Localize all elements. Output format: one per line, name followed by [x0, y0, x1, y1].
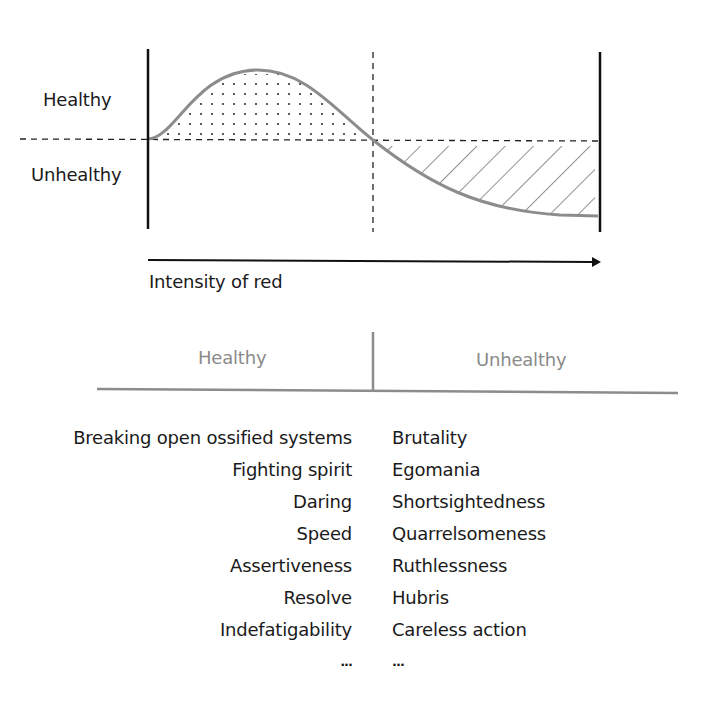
list-item-ellipsis: ...	[392, 646, 546, 678]
list-item: Fighting spirit	[73, 454, 352, 486]
y-label-healthy: Healthy	[43, 89, 111, 110]
list-item: Shortsightedness	[392, 486, 546, 518]
list-item-ellipsis: ...	[73, 646, 352, 678]
neutral-baseline	[20, 139, 598, 141]
unhealthy-traits-list: Brutality Egomania Shortsightedness Quar…	[392, 422, 546, 678]
healthy-traits-list: Breaking open ossified systems Fighting …	[73, 422, 352, 678]
list-item: Daring	[73, 486, 352, 518]
list-item: Assertiveness	[73, 550, 352, 582]
list-item: Indefatigability	[73, 614, 352, 646]
list-item: Quarrelsomeness	[392, 518, 546, 550]
list-item: Resolve	[73, 582, 352, 614]
x-axis-arrow-line	[148, 260, 592, 262]
list-item: Brutality	[392, 422, 546, 454]
list-item: Speed	[73, 518, 352, 550]
column-header-unhealthy: Unhealthy	[476, 349, 566, 370]
list-item: Hubris	[392, 582, 546, 614]
column-header-healthy: Healthy	[198, 347, 266, 368]
list-item: Ruthlessness	[392, 550, 546, 582]
y-label-unhealthy: Unhealthy	[31, 164, 121, 185]
list-item: Careless action	[392, 614, 546, 646]
arrow-head-icon	[592, 257, 601, 267]
x-axis-label: Intensity of red	[149, 271, 282, 292]
table-horizontal-rule	[97, 389, 678, 393]
list-item: Egomania	[392, 454, 546, 486]
list-item: Breaking open ossified systems	[73, 422, 352, 454]
